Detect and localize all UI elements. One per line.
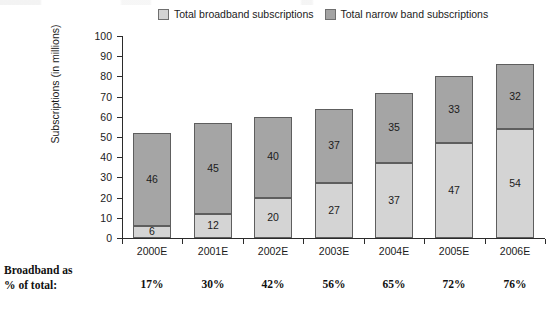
bar-value-label: 12 xyxy=(207,220,219,231)
x-axis-label: 2000E xyxy=(122,246,182,257)
footer-percent-value: 30% xyxy=(183,279,243,291)
x-axis-tick xyxy=(303,239,304,244)
footer-label: Broadband as % of total: xyxy=(4,263,73,293)
y-axis-tick-label: 80 xyxy=(72,71,112,82)
bar-segment-narrowband: 40 xyxy=(254,117,292,198)
y-axis-tick-label: 100 xyxy=(72,31,112,42)
y-axis-tick-label: 70 xyxy=(72,92,112,103)
footer-percent-value: 65% xyxy=(364,279,424,291)
bar-segment-narrowband: 33 xyxy=(435,76,473,143)
footer-percent-value: 17% xyxy=(122,279,182,291)
y-axis-tick xyxy=(117,198,122,199)
bar-segment-narrowband: 37 xyxy=(315,109,353,184)
y-axis-tick-label: 10 xyxy=(72,213,112,224)
bar-value-label: 47 xyxy=(448,185,460,196)
x-axis-label: 2003E xyxy=(304,246,364,257)
stacked-bar-chart: Subscriptions (in millions) 010203040506… xyxy=(0,0,557,312)
y-axis-tick-label: 0 xyxy=(72,233,112,244)
x-axis-tick xyxy=(364,239,365,244)
x-axis-tick xyxy=(545,239,546,244)
x-axis-label: 2004E xyxy=(364,246,424,257)
y-axis-tick xyxy=(117,76,122,77)
y-axis-tick xyxy=(117,97,122,98)
y-axis-tick xyxy=(117,56,122,57)
bar-value-label: 33 xyxy=(448,104,460,115)
y-axis-tick xyxy=(117,218,122,219)
bar-value-label: 37 xyxy=(388,195,400,206)
y-axis-tick xyxy=(117,177,122,178)
y-axis-tick-label: 60 xyxy=(72,112,112,123)
x-axis-label: 2006E xyxy=(485,246,545,257)
y-axis-tick-label: 50 xyxy=(72,132,112,143)
x-axis-label: 2002E xyxy=(243,246,303,257)
y-axis-tick xyxy=(117,117,122,118)
bar-value-label: 20 xyxy=(267,212,279,223)
footer-percent-value: 42% xyxy=(243,279,303,291)
y-axis-line xyxy=(122,36,123,239)
bar-segment-narrowband: 32 xyxy=(496,64,534,129)
bar-segment-broadband: 37 xyxy=(375,163,413,238)
x-axis-label: 2005E xyxy=(424,246,484,257)
x-axis-tick xyxy=(424,239,425,244)
y-axis-title: Subscriptions (in millions) xyxy=(49,4,61,164)
footer-percent-value: 56% xyxy=(304,279,364,291)
bar-segment-broadband: 12 xyxy=(194,214,232,238)
bar-segment-broadband: 20 xyxy=(254,198,292,238)
y-axis-tick xyxy=(117,157,122,158)
x-axis-tick xyxy=(485,239,486,244)
bar-value-label: 37 xyxy=(328,140,340,151)
y-axis-tick-label: 30 xyxy=(72,172,112,183)
bar-segment-broadband: 27 xyxy=(315,183,353,238)
bar-value-label: 45 xyxy=(207,163,219,174)
x-axis-tick xyxy=(243,239,244,244)
y-axis-tick-label: 40 xyxy=(72,152,112,163)
bar-segment-broadband: 6 xyxy=(133,226,171,238)
y-axis-tick xyxy=(117,137,122,138)
bar-segment-narrowband: 45 xyxy=(194,123,232,214)
y-axis-tick xyxy=(117,36,122,37)
bar-value-label: 27 xyxy=(328,205,340,216)
bar-value-label: 35 xyxy=(388,122,400,133)
x-axis-tick xyxy=(122,239,123,244)
bar-segment-narrowband: 46 xyxy=(133,133,171,226)
bar-value-label: 40 xyxy=(267,151,279,162)
footer-percent-value: 76% xyxy=(485,279,545,291)
bar-value-label: 46 xyxy=(146,174,158,185)
bar-value-label: 32 xyxy=(509,91,521,102)
y-axis-tick-label: 90 xyxy=(72,51,112,62)
bar-value-label: 6 xyxy=(149,226,155,237)
x-axis-line xyxy=(122,238,545,239)
bar-segment-broadband: 54 xyxy=(496,129,534,238)
footer-percent-value: 72% xyxy=(424,279,484,291)
bar-segment-broadband: 47 xyxy=(435,143,473,238)
y-axis-tick-label: 20 xyxy=(72,193,112,204)
bar-value-label: 54 xyxy=(509,178,521,189)
bar-segment-narrowband: 35 xyxy=(375,93,413,164)
x-axis-tick xyxy=(182,239,183,244)
x-axis-label: 2001E xyxy=(183,246,243,257)
